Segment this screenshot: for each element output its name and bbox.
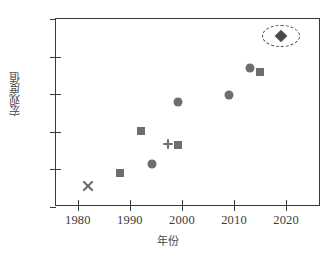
x-tick-label-1980: 1980: [56, 213, 100, 228]
data-point-circle-3[interactable]: [245, 63, 254, 72]
y-tick-inner-11: [56, 94, 61, 95]
x-tick-label-2010: 2010: [212, 213, 256, 228]
x-tick-1980: [78, 205, 79, 211]
data-point-circle-2[interactable]: [225, 91, 234, 100]
x-tick-inner-2000: [182, 200, 183, 205]
data-point-square-2[interactable]: [174, 141, 182, 149]
x-tick-inner-2020: [286, 200, 287, 205]
x-tick-inner-1990: [130, 200, 131, 205]
data-point-plus-0[interactable]: [162, 139, 173, 150]
plot-area: 579111315 19801990200020102020: [55, 18, 320, 206]
data-point-x-0[interactable]: [83, 181, 94, 192]
x-tick-2020: [286, 205, 287, 211]
x-tick-inner-2010: [234, 200, 235, 205]
y-tick-inner-9: [56, 132, 61, 133]
data-point-square-3[interactable]: [256, 68, 264, 76]
y-tick-5: [50, 207, 56, 208]
x-tick-label-2020: 2020: [264, 213, 308, 228]
data-point-circle-1[interactable]: [173, 97, 182, 106]
y-tick-inner-13: [56, 57, 61, 58]
x-axis-title: 年份: [0, 232, 336, 248]
y-tick-15: [50, 19, 56, 20]
data-point-square-0[interactable]: [116, 169, 124, 177]
highlight-ellipse-icon: [262, 25, 300, 47]
y-axis-title: 宏观度值: [10, 72, 28, 116]
x-tick-2000: [182, 205, 183, 211]
x-tick-label-2000: 2000: [160, 213, 204, 228]
data-point-circle-0[interactable]: [148, 159, 157, 168]
x-tick-label-1990: 1990: [108, 213, 152, 228]
scatter-chart: 宏观度值 年份 579111315 19801990200020102020: [0, 0, 336, 256]
y-tick-inner-7: [56, 169, 61, 170]
x-tick-2010: [234, 205, 235, 211]
x-tick-inner-1980: [78, 200, 79, 205]
x-tick-1990: [130, 205, 131, 211]
data-point-square-1[interactable]: [137, 127, 145, 135]
